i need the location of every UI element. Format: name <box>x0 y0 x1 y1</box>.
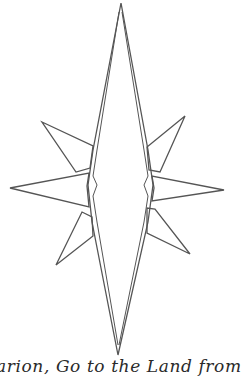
ray-left <box>10 173 89 207</box>
inner-channel-right <box>119 12 148 345</box>
handwritten-caption: arion, Go to the Land from <box>0 356 236 376</box>
arm-lower-right <box>147 208 190 254</box>
ray-right <box>152 176 224 201</box>
arm-lower-left <box>56 212 93 265</box>
main-diamond-outer <box>88 3 153 355</box>
arm-upper-right <box>147 116 185 172</box>
arm-upper-left <box>42 122 93 172</box>
